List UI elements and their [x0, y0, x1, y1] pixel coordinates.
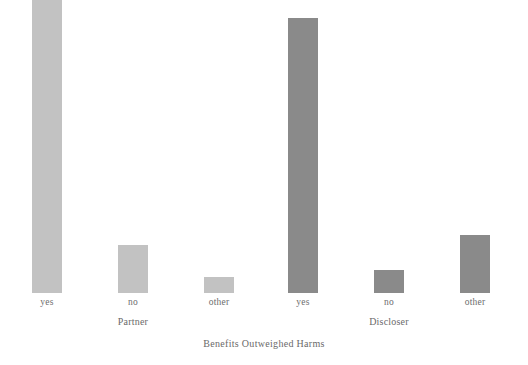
bar-discloser-yes [288, 18, 318, 293]
bar-discloser-other [460, 235, 490, 293]
category-label-other-5: other [435, 297, 515, 307]
category-label-other-2: other [179, 297, 259, 307]
x-axis-title: Benefits Outweighed Harms [0, 338, 528, 349]
category-label-no-1: no [93, 297, 173, 307]
category-label-yes-0: yes [7, 297, 87, 307]
bar-partner-no [118, 245, 148, 293]
bar-discloser-no [374, 270, 404, 293]
bar-partner-other [204, 277, 234, 293]
category-label-no-4: no [349, 297, 429, 307]
bar-partner-yes [32, 0, 62, 293]
category-label-yes-3: yes [263, 297, 343, 307]
bar-chart: yesnootheryesnoother PartnerDiscloser Be… [0, 0, 528, 365]
group-label-discloser: Discloser [329, 316, 449, 327]
plot-area [0, 0, 528, 293]
group-label-partner: Partner [73, 316, 193, 327]
